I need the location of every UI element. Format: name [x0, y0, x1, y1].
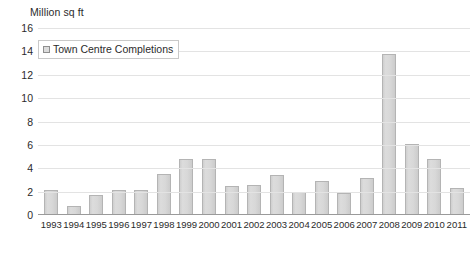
bar: [134, 190, 148, 215]
x-axis-tick-label: 1999: [175, 219, 198, 230]
bar: [315, 181, 329, 215]
gridline: [38, 75, 470, 76]
x-axis-tick-label: 2002: [243, 219, 266, 230]
y-axis-tick-label: 16: [21, 22, 33, 34]
y-axis-tick-label: 10: [21, 92, 33, 104]
bar: [89, 195, 103, 215]
legend-item-label: Town Centre Completions: [53, 43, 173, 55]
x-axis-tick-label: 2005: [310, 219, 333, 230]
bar: [270, 175, 284, 215]
chart-legend: Town Centre Completions: [38, 40, 179, 59]
y-axis-title: Million sq ft: [30, 6, 84, 18]
x-axis-tick-label: 1996: [108, 219, 131, 230]
y-axis-tick-label: 6: [27, 139, 33, 151]
y-axis-tick-label: 14: [21, 45, 33, 57]
x-axis-tick-label: 2001: [220, 219, 243, 230]
gridline: [38, 168, 470, 169]
y-axis-tick-label: 0: [27, 209, 33, 221]
x-axis-tick-labels: 1993199419951996199719981999200020012002…: [38, 219, 470, 230]
x-axis-tick-label: 2000: [198, 219, 221, 230]
x-axis-tick-label: 1993: [40, 219, 63, 230]
bar: [157, 174, 171, 215]
x-axis-tick-label: 1995: [85, 219, 108, 230]
x-axis-tick-label: 2011: [446, 219, 469, 230]
y-axis-tick-label: 12: [21, 69, 33, 81]
x-axis-tick-label: 2006: [333, 219, 356, 230]
y-axis-tick-label: 4: [27, 162, 33, 174]
x-axis-tick-label: 1998: [153, 219, 176, 230]
bar: [225, 186, 239, 215]
bar: [405, 144, 419, 215]
bar-chart: Million sq ft 1614121086420 199319941995…: [0, 0, 476, 257]
x-axis-tick-label: 1994: [63, 219, 86, 230]
bar: [112, 190, 126, 215]
gridline: [38, 145, 470, 146]
bar: [44, 190, 58, 215]
gridline: [38, 98, 470, 99]
x-axis-tick-label: 2008: [378, 219, 401, 230]
legend-swatch-icon: [43, 46, 50, 53]
x-axis-tick-label: 1997: [130, 219, 153, 230]
x-axis-tick-label: 2009: [401, 219, 424, 230]
y-axis-tick-label: 8: [27, 116, 33, 128]
bar: [337, 193, 351, 215]
x-axis-tick-label: 2007: [355, 219, 378, 230]
x-axis-tick-label: 2003: [265, 219, 288, 230]
gridline: [38, 192, 470, 193]
gridline: [38, 28, 470, 29]
bar: [360, 178, 374, 215]
bar: [247, 185, 261, 215]
bar: [292, 192, 306, 215]
gridline: [38, 122, 470, 123]
x-axis-tick-label: 2010: [423, 219, 446, 230]
x-axis-line: [38, 214, 470, 215]
y-axis-tick-label: 2: [27, 186, 33, 198]
x-axis-tick-label: 2004: [288, 219, 311, 230]
